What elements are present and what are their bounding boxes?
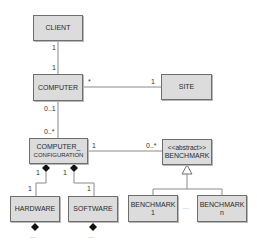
class-name: BENCHMARK	[165, 152, 210, 160]
composition-diamond-icon	[70, 164, 78, 172]
class-benchmark-abstract: <<abstract>> BENCHMARK	[162, 139, 212, 165]
multiplicity-label: 1	[52, 44, 56, 51]
ellipsis-benchmarks: ...	[183, 203, 189, 210]
class-name: COMPUTER	[38, 84, 78, 92]
multiplicity-label: 1	[36, 169, 40, 176]
class-software: SOFTWARE	[68, 196, 118, 222]
class-client: CLIENT	[33, 15, 83, 41]
class-name-line1: BENCHMARK	[131, 201, 176, 209]
multiplicity-label: 0..1	[44, 105, 56, 112]
class-computer: COMPUTER	[33, 74, 83, 101]
uml-class-diagram: CLIENT COMPUTER SITE COMPUTER_ CONFIGURA…	[0, 0, 257, 249]
stereotype: <<abstract>>	[168, 144, 206, 152]
composition-diamond-icon	[89, 223, 97, 231]
ellipsis-software: ...	[88, 232, 94, 239]
multiplicity-label: 1	[28, 185, 32, 192]
class-hardware: HARDWARE	[10, 196, 60, 222]
multiplicity-label: 1	[63, 169, 67, 176]
composition-diamond-icon	[42, 164, 50, 172]
multiplicity-label: 1	[92, 142, 96, 149]
composition-config-software	[74, 172, 94, 196]
class-name: SITE	[179, 83, 195, 91]
class-name-line1: COMPUTER_	[37, 143, 81, 151]
class-name-line2: CONFIGURATION	[34, 151, 84, 159]
class-name: CLIENT	[46, 24, 71, 32]
multiplicity-label: 1	[87, 185, 91, 192]
generalization-triangle-icon	[182, 165, 192, 174]
class-benchmark-1: BENCHMARK 1	[128, 195, 178, 222]
class-site: SITE	[161, 74, 212, 100]
class-benchmark-n: BENCHMARK n	[197, 195, 247, 222]
class-name: HARDWARE	[15, 205, 56, 213]
class-computer-configuration: COMPUTER_ CONFIGURATION	[29, 138, 88, 164]
class-name-line1: BENCHMARK	[200, 201, 245, 209]
multiplicity-label: *	[88, 78, 91, 85]
class-name: SOFTWARE	[73, 205, 112, 213]
multiplicity-label: 0..*	[44, 128, 55, 135]
multiplicity-label: 0..*	[146, 142, 157, 149]
composition-diamond-icon	[31, 223, 39, 231]
class-name-line2: 1	[151, 209, 155, 217]
multiplicity-label: 1	[151, 78, 155, 85]
ellipsis-hardware: ...	[30, 232, 36, 239]
multiplicity-label: 1	[52, 64, 56, 71]
class-name-line2: n	[220, 209, 224, 217]
